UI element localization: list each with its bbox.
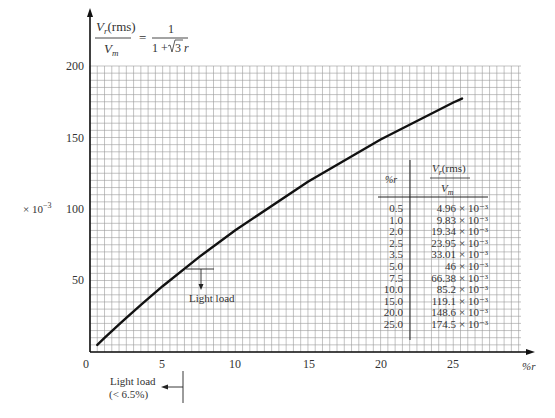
table-cell-value: 4.96 <box>437 202 457 214</box>
table-cell-r: 3.5 <box>389 248 403 260</box>
y-tick-150: 150 <box>66 131 84 145</box>
x-axis-arrow-icon <box>526 349 535 355</box>
table-cell-value: 119.1 <box>432 295 456 307</box>
light-load-region: Light load (< 6.5%) <box>109 371 183 403</box>
arrow-left-icon <box>161 385 168 390</box>
table-cell-r: 2.5 <box>389 237 403 249</box>
table-cell-r: 15.0 <box>384 295 404 307</box>
x-tick-20: 20 <box>375 357 387 371</box>
table-cell-value: 19.34 <box>431 225 456 237</box>
table-cell-r: 20.0 <box>384 306 404 318</box>
table-cell-exponent: × 10⁻³ <box>459 318 489 330</box>
table-cell-value: 9.83 <box>437 214 457 226</box>
light-load-marker: Light load <box>186 269 235 304</box>
light-load-region-line1: Light load <box>110 375 156 387</box>
table-cell-exponent: × 10⁻³ <box>459 260 489 272</box>
table-cell-exponent: × 10⁻³ <box>459 225 489 237</box>
table-cell-r: 7.5 <box>389 272 403 284</box>
formula-rhs-denominator: 1 + <box>152 41 168 55</box>
title-formula: Vr(rms) Vm = 1 1 + 3 r <box>95 19 189 58</box>
table-cell-r: 2.0 <box>389 225 403 237</box>
x-tick-10: 10 <box>229 357 241 371</box>
ripple-factor-chart: Vr(rms) Vm = 1 1 + 3 r 200 150 100 50 × … <box>0 0 555 418</box>
values-table: %r Vr(rms) Vm 0.54.96× 10⁻³1.09.83× 10⁻³… <box>372 157 490 340</box>
x-tick-25: 25 <box>447 357 459 371</box>
table-cell-value: 66.38 <box>431 272 456 284</box>
table-cell-r: 10.0 <box>384 283 404 295</box>
table-cell-exponent: × 10⁻³ <box>459 248 489 260</box>
table-row: 15.0119.1× 10⁻³ <box>384 295 489 307</box>
formula-rhs-numerator: 1 <box>168 22 174 36</box>
table-row: 20.0148.6× 10⁻³ <box>384 306 489 318</box>
y-axis-arrow-icon <box>87 8 93 17</box>
formula-denominator: Vm <box>104 41 119 58</box>
y-tick-100: 100 <box>66 202 84 216</box>
table-cell-value: 174.5 <box>431 318 456 330</box>
y-tick-50: 50 <box>72 273 84 287</box>
x-tick-5: 5 <box>159 357 165 371</box>
x-unit-label: %r <box>522 360 536 372</box>
table-row: 25.0174.5× 10⁻³ <box>384 318 489 330</box>
formula-equals: = <box>139 30 146 45</box>
table-cell-exponent: × 10⁻³ <box>459 202 489 214</box>
table-cell-value: 23.95 <box>431 237 456 249</box>
table-cell-value: 85.2 <box>437 283 456 295</box>
table-cell-r: 1.0 <box>389 214 403 226</box>
table-cell-r: 25.0 <box>384 318 404 330</box>
light-load-region-line2: (< 6.5%) <box>109 388 149 401</box>
y-multiplier-label: × 10−3 <box>23 201 51 215</box>
table-cell-exponent: × 10⁻³ <box>459 272 489 284</box>
table-row: 10.085.2× 10⁻³ <box>384 283 489 295</box>
table-cell-exponent: × 10⁻³ <box>459 214 489 226</box>
formula-var: r <box>184 41 189 55</box>
table-cell-exponent: × 10⁻³ <box>459 283 489 295</box>
table-cell-exponent: × 10⁻³ <box>459 306 489 318</box>
light-load-marker-label: Light load <box>189 292 235 304</box>
table-cell-exponent: × 10⁻³ <box>459 237 489 249</box>
table-header-r: %r <box>385 174 397 185</box>
x-tick-15: 15 <box>303 357 315 371</box>
x-tick-0: 0 <box>83 357 89 371</box>
table-cell-exponent: × 10⁻³ <box>459 295 489 307</box>
table-cell-value: 33.01 <box>431 248 456 260</box>
table-cell-value: 46 <box>445 260 457 272</box>
table-cell-r: 0.5 <box>389 202 403 214</box>
y-tick-200: 200 <box>66 59 84 73</box>
formula-sqrt-value: 3 <box>175 41 181 55</box>
table-cell-value: 148.6 <box>431 306 456 318</box>
formula-numerator: Vr(rms) <box>96 19 136 36</box>
table-cell-r: 5.0 <box>389 260 403 272</box>
